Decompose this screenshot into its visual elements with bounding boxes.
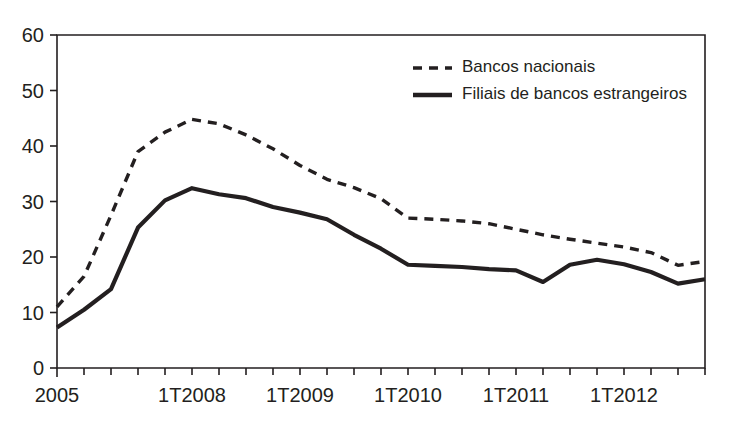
x-tick-label: 1T2011 — [483, 384, 549, 406]
x-tick-label: 1T2008 — [158, 384, 226, 406]
y-tick-label: 50 — [22, 80, 44, 102]
y-tick-label: 0 — [33, 357, 44, 379]
x-tick-label: 1T2012 — [590, 384, 658, 406]
legend-label-bancos-nacionais: Bancos nacionais — [462, 57, 595, 76]
y-tick-label: 40 — [22, 135, 44, 157]
y-tick-label: 20 — [22, 246, 44, 268]
y-tick-label: 30 — [22, 191, 44, 213]
x-tick-label: 1T2010 — [374, 384, 442, 406]
legend-label-filiais-bancos-estrangeiros: Filiais de bancos estrangeiros — [462, 84, 687, 103]
x-tick-label: 1T2009 — [266, 384, 334, 406]
chart-figure: 0102030405060 20051T20081T20091T20101T20… — [0, 0, 730, 427]
chart-background — [0, 0, 730, 427]
y-tick-label: 60 — [22, 24, 44, 46]
y-tick-label: 10 — [22, 302, 44, 324]
line-chart-canvas: 0102030405060 20051T20081T20091T20101T20… — [0, 0, 730, 427]
x-tick-label: 2005 — [35, 384, 80, 406]
